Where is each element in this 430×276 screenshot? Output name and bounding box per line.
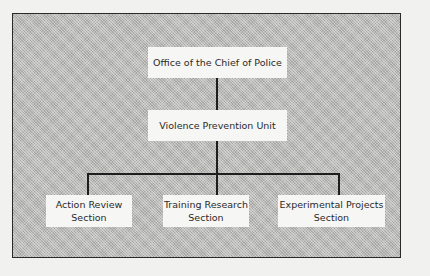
node-label-line1: Training Research xyxy=(164,198,248,211)
node-label-line2: Section xyxy=(71,211,106,224)
node-label-line2: Section xyxy=(188,211,223,224)
node-violence-prevention-unit: Violence Prevention Unit xyxy=(148,110,287,141)
node-experimental-projects-section: Experimental Projects Section xyxy=(278,195,385,227)
node-label-line1: Experimental Projects xyxy=(280,198,384,211)
node-label: Violence Prevention Unit xyxy=(159,119,275,132)
node-action-review-section: Action Review Section xyxy=(46,195,132,227)
node-label: Office of the Chief of Police xyxy=(153,56,282,69)
connector-office-vpu xyxy=(216,78,218,110)
node-label-line2: Section xyxy=(314,211,349,224)
connector-vpu-down xyxy=(216,141,218,195)
node-training-research-section: Training Research Section xyxy=(163,195,249,227)
connector-horizontal xyxy=(87,173,340,175)
connector-action xyxy=(87,173,89,195)
node-office-of-chief: Office of the Chief of Police xyxy=(148,47,287,78)
connector-experimental xyxy=(338,173,340,195)
node-label-line1: Action Review xyxy=(56,198,123,211)
